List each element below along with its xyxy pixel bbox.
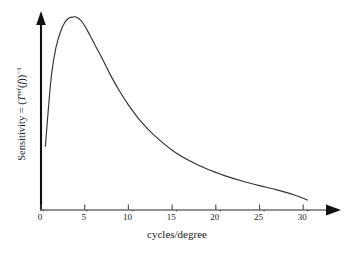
prime-mark-20: ′ <box>220 209 222 218</box>
x-tick-label-0: 0′ <box>38 212 44 222</box>
prime-mark-10: ′ <box>132 209 134 218</box>
x-tick-label-15: 15′ <box>167 212 178 222</box>
y-axis-title-var-t: T <box>16 95 27 101</box>
y-axis-title-sup-ref: ref <box>15 88 22 95</box>
y-axis-title-var-f: f <box>16 82 27 85</box>
prime-mark-25: ′ <box>263 209 265 218</box>
figure-container: 0′ 5′ 10′ 15′ 20′ 25′ 30′ cycles/degree … <box>0 0 346 257</box>
prime-mark-15: ′ <box>176 209 178 218</box>
x-tick-label-25: 25′ <box>254 212 265 222</box>
y-axis-title-exponent: −1 <box>15 67 23 74</box>
prime-mark-30: ′ <box>307 209 309 218</box>
x-axis-title: cycles/degree <box>0 228 346 241</box>
x-axis-title-text: cycles/degree <box>147 228 207 241</box>
x-tick-label-5: 5′ <box>81 212 87 222</box>
x-tick-label-30: 30′ <box>298 212 309 222</box>
x-tick-label-20: 20′ <box>210 212 221 222</box>
x-axis-arrowhead <box>326 205 341 216</box>
y-axis-title-lead: Sensitivity = ( <box>16 101 27 161</box>
sensitivity-curve <box>45 17 307 200</box>
y-axis-title-open-paren: ( <box>16 85 27 89</box>
y-axis-title-close-parens: )) <box>16 75 27 82</box>
y-axis-title: Sensitivity = (Tref(f))−1 <box>16 29 28 199</box>
x-tick-label-10: 10′ <box>123 212 134 222</box>
